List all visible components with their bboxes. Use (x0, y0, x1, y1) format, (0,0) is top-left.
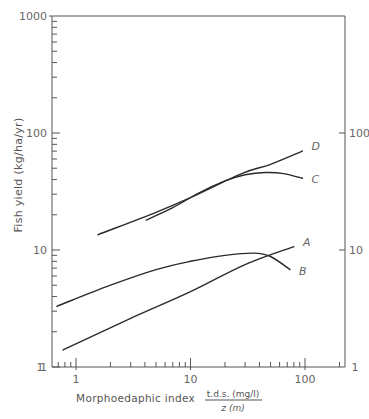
curve-a (63, 247, 294, 350)
x-tick-label: 100 (295, 373, 316, 386)
labels: 10100110100100011010011ABCDFish yield (k… (12, 10, 369, 413)
plot-frame (52, 16, 345, 367)
x-tick-label: 1 (73, 373, 80, 386)
y-tick-label: 1000 (19, 10, 47, 23)
y-tick-label: 100 (26, 127, 47, 140)
curve-d (98, 151, 303, 235)
x-axis-fraction-numerator: t.d.s. (mg/l) (207, 389, 259, 399)
x-axis-fraction-denominator: z (m) (220, 403, 244, 413)
fish-yield-chart: 10100110100100011010011ABCDFish yield (k… (0, 0, 369, 419)
series-label-c: C (311, 173, 319, 186)
curve-c (146, 172, 302, 220)
curves (57, 151, 303, 350)
series-label-b: B (299, 265, 307, 278)
series-label-d: D (311, 140, 319, 153)
axes (49, 16, 345, 370)
y-axis-title-text: Fish yield (kg/ha/yr) (12, 117, 25, 232)
right-y-tick-label: 10 (349, 244, 363, 257)
x-tick-label: 10 (184, 373, 198, 386)
right-y-tick-label: 100 (349, 127, 369, 140)
corner-label-left: 1 (37, 361, 44, 374)
y-tick-label: 10 (33, 244, 47, 257)
corner-label-right: 1 (352, 361, 359, 374)
series-label-a: A (302, 236, 311, 249)
x-axis-title-text: Morphoedaphic index (76, 392, 195, 404)
